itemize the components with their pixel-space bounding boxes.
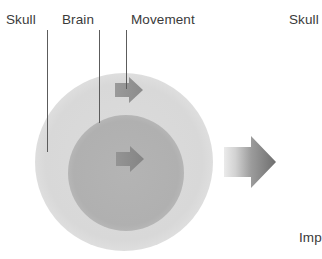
diagram-canvas: Skull Brain Movement Skull Imp bbox=[0, 0, 322, 259]
impact-arrow bbox=[224, 136, 276, 188]
label-impact: Imp bbox=[299, 230, 322, 246]
label-skull-left: Skull bbox=[6, 12, 36, 28]
label-movement: Movement bbox=[131, 12, 195, 28]
label-brain: Brain bbox=[62, 12, 94, 28]
leader-line-skull bbox=[47, 30, 48, 152]
brain-circle bbox=[68, 115, 184, 231]
leader-line-movement bbox=[126, 30, 127, 89]
diagram-graphics bbox=[0, 0, 322, 259]
leader-line-brain bbox=[99, 30, 100, 123]
label-skull-right: Skull bbox=[289, 12, 319, 28]
